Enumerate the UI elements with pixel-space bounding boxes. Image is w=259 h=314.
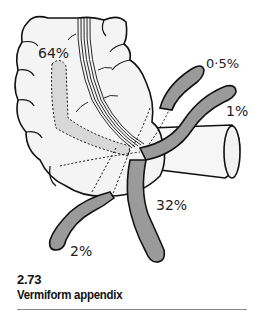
label-preileal: 0·5% bbox=[206, 56, 239, 71]
label-pelvic: 32% bbox=[156, 197, 187, 213]
appendix-illustration: 64% 0·5% 1% 32% 2% bbox=[0, 0, 259, 270]
caption-divider bbox=[17, 309, 247, 310]
figure-title: Vermiform appendix bbox=[17, 287, 219, 303]
figure-number: 2.73 bbox=[17, 272, 247, 287]
appendix-subcecal bbox=[50, 192, 114, 250]
label-postileal: 1% bbox=[226, 103, 248, 119]
figure-caption: 2.73 Vermiform appendix bbox=[17, 272, 247, 303]
label-retrocecal: 64% bbox=[38, 45, 69, 61]
label-subcecal: 2% bbox=[70, 243, 92, 259]
